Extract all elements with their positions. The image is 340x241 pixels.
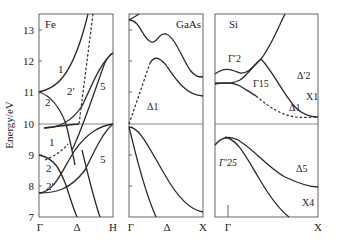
fe-label-2-upper: 2 <box>45 96 51 108</box>
fe-x-tick-gamma: Γ <box>37 221 43 233</box>
si-label-x1: X1 <box>306 91 318 102</box>
y-axis-label: Energy/eV <box>3 101 15 149</box>
si-label-gamma25p: Γ′25 <box>218 157 237 168</box>
fe-label-2-lower: 2 <box>46 162 52 174</box>
si-label-x4: X4 <box>302 197 314 208</box>
panel-title-si: Si <box>229 18 238 30</box>
y-tick-9: 9 <box>29 149 35 161</box>
band-structure-figure: Energy/eV 13 12 11 10 9 8 7 Fe <box>0 0 340 241</box>
si-x-tick-x: X <box>314 221 322 233</box>
fe-label-1-upper: 1 <box>58 63 64 75</box>
fe-x-tick-delta: Δ <box>73 221 80 233</box>
gaas-x-tick-gamma: Γ <box>128 221 134 233</box>
si-label-delta1: Δ1 <box>289 102 300 113</box>
fe-label-5-lower: 5 <box>100 153 106 165</box>
y-tick-13: 13 <box>23 24 35 36</box>
fe-label-1-lower: 1 <box>49 136 55 148</box>
si-label-gamma15: Γ15 <box>253 78 269 89</box>
si-label-delta5: Δ5 <box>296 163 307 174</box>
gaas-x-tick-delta: Δ <box>163 221 170 233</box>
fe-label-2p-lower: 2′ <box>46 180 54 192</box>
gaas-x-tick-x: X <box>199 221 207 233</box>
si-label-gamma2p: Γ′2 <box>228 53 241 64</box>
y-tick-8: 8 <box>29 180 35 192</box>
si-label-delta2p: Δ′2 <box>297 70 311 81</box>
fe-x-tick-h: H <box>109 221 117 233</box>
y-tick-10: 10 <box>23 118 35 130</box>
si-x-tick-gamma: Γ <box>225 221 231 233</box>
panel-title-gaas: GaAs <box>176 18 201 30</box>
fe-label-5-upper: 5 <box>100 80 106 92</box>
y-tick-7: 7 <box>29 211 35 223</box>
fe-label-2p-upper: 2′ <box>67 85 75 97</box>
panel-si: Si Γ′2 Γ15 Δ′2 X1 Δ1 Γ′25 Δ5 X4 Γ X <box>215 14 322 233</box>
panel-title-fe: Fe <box>45 18 56 30</box>
y-tick-12: 12 <box>23 55 34 67</box>
panel-gaas: GaAs Δ1 Γ Δ X <box>128 14 207 233</box>
y-tick-11: 11 <box>23 86 34 98</box>
gaas-label-delta1: Δ1 <box>147 101 158 112</box>
panel-fe: Fe 1 2 2′ 5 1 2 2′ 5 Γ Δ H <box>37 14 117 233</box>
